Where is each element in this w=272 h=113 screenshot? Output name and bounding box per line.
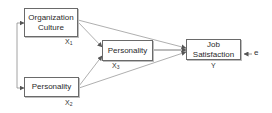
node-x1-line1: Organization: [28, 13, 73, 23]
node-job-satisfaction: Job Satisfaction: [186, 39, 241, 60]
node-personality-x2: Personality: [24, 77, 79, 97]
node-organization-culture: Organization Culture: [24, 8, 78, 37]
arrow-x1-to-x3: [78, 22, 102, 47]
var-label-x2: X2: [65, 99, 72, 108]
var-label-x3: X3: [112, 62, 119, 71]
node-x1-line2: Culture: [28, 23, 73, 33]
node-x3-label: Personality: [108, 46, 148, 56]
node-y-label: Job Satisfaction: [187, 40, 240, 60]
path-diagram: Organization Culture X1 Personality X2 P…: [0, 0, 272, 113]
var-label-y: Y: [211, 62, 216, 70]
var-label-x1: X1: [65, 38, 72, 47]
correlation-arrow-x1-x2: [17, 23, 24, 88]
error-term-e: e: [254, 49, 258, 57]
node-x2-label: Personality: [32, 82, 72, 92]
node-personality-x3: Personality: [102, 40, 153, 61]
